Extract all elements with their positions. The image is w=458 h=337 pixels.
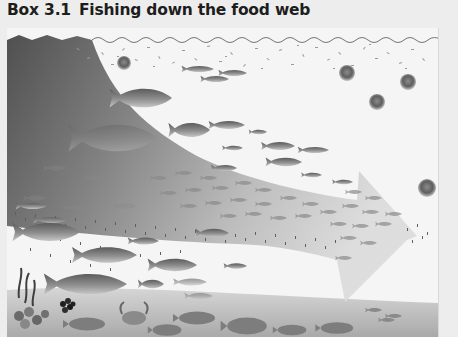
- jellyfish-icon: [418, 179, 436, 197]
- jellyfish-icon: [117, 56, 131, 70]
- box-heading: Fishing down the food web: [79, 1, 310, 19]
- box-number: Box 3.1: [7, 1, 71, 19]
- sea-surface: [92, 38, 438, 43]
- jellyfish-icon: [369, 94, 385, 110]
- jellyfish-icon: [400, 74, 416, 90]
- box-title: Box 3.1Fishing down the food web: [7, 1, 310, 19]
- ocean-scene: [7, 28, 438, 337]
- food-web-illustration: [7, 28, 439, 337]
- jellyfish-icon: [339, 65, 355, 81]
